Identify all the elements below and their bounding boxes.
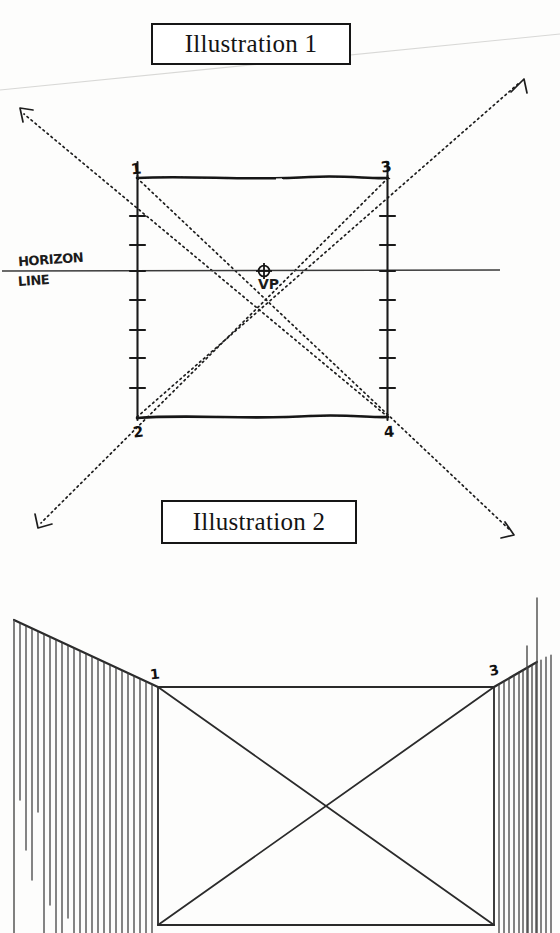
near-rectangle-diagonals <box>158 687 494 925</box>
illustration-2-corner-label-1: 1 <box>149 666 160 683</box>
illustration-1-corner-label-4: 4 <box>383 423 395 442</box>
vanishing-ray-group <box>24 84 518 531</box>
arrowhead-lower-left <box>35 514 52 528</box>
right-receding-edge <box>494 662 537 687</box>
horizon-line-label-word-2: LINE <box>18 272 50 289</box>
arrowhead-upper-right <box>511 79 527 93</box>
right-hatching-group <box>499 655 551 933</box>
vanishing-point-label: VP <box>258 276 279 292</box>
illustration-2-caption: Illustration 2 <box>161 500 357 544</box>
left-hatching-group <box>20 623 152 933</box>
rectangle-vertical-edges <box>138 176 388 420</box>
corner-tick-marks <box>138 162 388 176</box>
illustration-2-group <box>14 598 551 933</box>
illustration-1-corner-label-1: 1 <box>130 160 142 179</box>
ray-3-to-lower-left <box>41 178 388 523</box>
perspective-drawing-canvas <box>0 0 560 933</box>
illustration-1-caption: Illustration 1 <box>151 23 351 65</box>
rectangle-bottom-edge <box>137 415 388 418</box>
illustration-1-group <box>2 79 527 538</box>
worksheet-page: Illustration 1 Illustration 2 HORIZON LI… <box>0 0 560 933</box>
horizon-line <box>2 270 500 271</box>
ray-4-to-upper-left <box>24 114 388 417</box>
ray-1-to-lower-right <box>137 178 511 531</box>
rectangle-top-edge <box>137 176 388 178</box>
arrowhead-lower-right <box>501 522 514 538</box>
